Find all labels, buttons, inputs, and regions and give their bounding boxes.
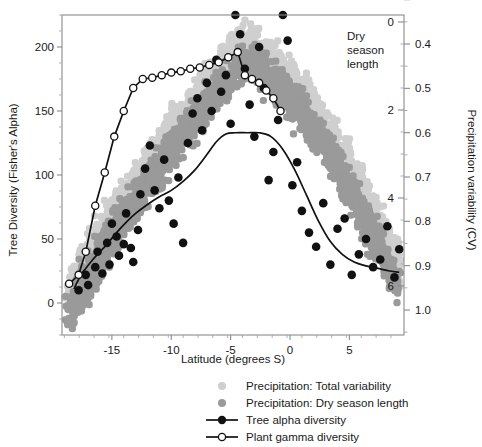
svg-text:50: 50: [41, 233, 54, 245]
legend-label: Precipitation: Total variability: [246, 380, 391, 392]
svg-text:0.9: 0.9: [415, 260, 431, 272]
svg-text:0.4: 0.4: [415, 38, 432, 50]
y-axis-title: Tree Diversity (Fisher's Alpha): [7, 103, 19, 256]
svg-text:-5: -5: [226, 344, 236, 356]
svg-text:150: 150: [35, 105, 54, 117]
inner-axis-title-line1: Dry: [347, 30, 365, 42]
svg-text:4: 4: [388, 192, 395, 204]
svg-text:2: 2: [388, 104, 394, 116]
svg-text:0: 0: [287, 344, 293, 356]
svg-text:0.6: 0.6: [415, 127, 431, 139]
svg-text:0.7: 0.7: [415, 171, 431, 183]
svg-text:6: 6: [388, 280, 394, 292]
y2-axis-title: Precipitation variability (CV): [466, 109, 478, 250]
svg-text:0: 0: [48, 297, 54, 309]
svg-text:100: 100: [35, 169, 54, 181]
svg-text:5: 5: [346, 344, 352, 356]
legend-marker-plant-gamma: [218, 433, 225, 440]
legend-label: Plant gamma diversity: [246, 431, 359, 443]
inner-axis-title-line3: length: [347, 58, 378, 70]
legend-item: Precipitation: Dry season length: [218, 397, 408, 409]
figure-root: Tree Diversity (Fisher's Alpha) Latitude…: [0, 0, 482, 447]
svg-text:200: 200: [35, 41, 54, 53]
svg-text:-15: -15: [104, 344, 121, 356]
inner-axis-title-line2: season: [347, 44, 384, 56]
legend-marker-total-variability: [218, 382, 226, 390]
svg-text:0.8: 0.8: [415, 215, 431, 227]
legend-label: Tree alpha diversity: [246, 414, 346, 426]
svg-text:0.5: 0.5: [415, 82, 431, 94]
legend-marker-tree-alpha: [218, 416, 226, 424]
svg-text:1.0: 1.0: [415, 304, 431, 316]
legend-marker-dry-season-length: [218, 399, 226, 407]
legend-label: Precipitation: Dry season length: [246, 397, 408, 409]
chart-canvas: Tree Diversity (Fisher's Alpha) Latitude…: [0, 0, 482, 447]
svg-text:-10: -10: [163, 344, 180, 356]
svg-text:0: 0: [388, 16, 394, 28]
